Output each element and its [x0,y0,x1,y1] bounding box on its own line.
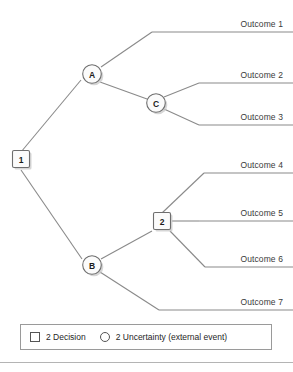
node-a-label: A [89,70,95,80]
outcome-label-5: Outcome 5 [241,208,283,218]
outcome-label-4: Outcome 4 [241,160,283,170]
decision-tree-canvas: 1 A C B 2 [0,0,293,372]
circle-icon [100,332,110,342]
node-c-label: C [153,99,159,109]
branch-root-to-b [21,170,82,259]
branch-b-to-node-2 [101,231,152,259]
square-icon [30,332,40,342]
outcome-label-6: Outcome 6 [241,254,283,264]
outcome-label-7: Outcome 7 [241,297,283,307]
branch-node2-to-outcome-4 [162,173,204,213]
outcome-label-2: Outcome 2 [241,70,283,80]
bottom-divider [0,362,293,363]
legend-entry-decision: 2 Decision [30,332,86,342]
node-b-label: B [89,261,95,271]
branch-a-to-outcome-1 [101,32,152,67]
outcome-label-3: Outcome 3 [241,112,283,122]
branch-node2-to-outcome-6 [170,231,205,267]
legend-decision-label: 2 Decision [46,332,86,342]
branch-b-to-outcome-7 [100,272,159,310]
legend-entry-uncertainty: 2 Uncertainty (external event) [100,332,228,342]
branch-c-to-outcome-3 [164,109,199,125]
outcome-label-1: Outcome 1 [241,19,283,29]
branch-root-to-a [21,80,81,152]
branch-c-to-outcome-2 [164,83,199,97]
legend-box: 2 Decision 2 Uncertainty (external event… [20,324,272,350]
branch-a-to-c [100,82,147,99]
legend-uncertainty-label: 2 Uncertainty (external event) [116,332,228,342]
node-2-label: 2 [160,217,165,227]
node-1-label: 1 [19,155,24,165]
